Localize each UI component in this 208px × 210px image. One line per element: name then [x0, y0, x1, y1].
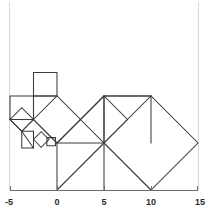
pythagorean-tree-svg: -5 0 5 10 15: [0, 0, 208, 210]
connector-diag-left: [34, 120, 58, 144]
square-level2-b: [34, 96, 81, 143]
square-level3-a: [34, 73, 58, 97]
x-axis: -5 0 5 10 15: [5, 186, 205, 207]
tree-shapes-group: [10, 73, 198, 191]
x-ticklabel-15: 15: [195, 197, 205, 207]
triangle-level4: [10, 120, 34, 132]
x-ticklabel-neg5: -5: [5, 197, 13, 207]
x-ticklabel-0: 0: [54, 197, 59, 207]
connector-small-diag: [22, 131, 34, 148]
x-ticklabel-10: 10: [146, 197, 156, 207]
plot-figure: -5 0 5 10 15: [0, 0, 208, 210]
x-ticklabel-5: 5: [101, 197, 106, 207]
